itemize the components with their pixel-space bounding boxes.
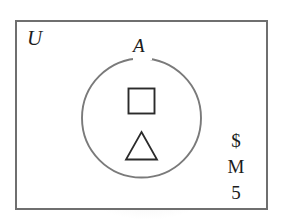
set-a-label: A <box>133 36 145 55</box>
outside-elements-list: $ M 5 <box>214 131 258 202</box>
universal-set-label: U <box>27 28 42 49</box>
square-element <box>129 89 155 114</box>
digit-five-element: 5 <box>214 183 258 202</box>
dollar-sign-element: $ <box>214 131 258 150</box>
letter-m-element: M <box>214 157 258 176</box>
venn-diagram-canvas: U A $ M 5 <box>0 0 282 223</box>
